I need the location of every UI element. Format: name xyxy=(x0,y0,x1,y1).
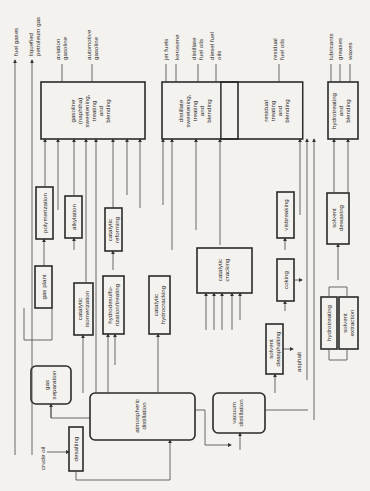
label-alkylation: alkylation xyxy=(70,204,77,230)
product-aviation-2: gasoline xyxy=(61,36,68,60)
product-diesel-1: diesel fuel xyxy=(208,32,215,60)
input-crude-oil: crude oil xyxy=(39,447,46,470)
product-jet-fuels: jet fuels xyxy=(162,39,169,61)
label-cat-cracking-1: catalytic xyxy=(216,259,223,281)
label-extraction-2: extraction xyxy=(348,309,355,336)
label-isomerization-2: isomerization xyxy=(83,290,90,327)
label-atm-dist-2: distillation xyxy=(140,402,147,430)
label-dewaxing-2: dewaxing xyxy=(337,204,344,231)
label-extraction-1: solvent xyxy=(341,313,348,333)
label-gasoline-5: and xyxy=(97,105,104,116)
product-residual-1: residual xyxy=(271,38,278,60)
label-deasphalting-2: deasphalting xyxy=(274,331,281,367)
label-isomerization-1: catalytic xyxy=(76,298,83,320)
label-residual-4: blending xyxy=(283,99,290,123)
label-gasoline-6: blending xyxy=(104,99,111,123)
product-automotive-2: gasoline xyxy=(92,36,99,60)
product-asphalt: asphalt xyxy=(295,352,302,372)
product-lubricants: lubricants xyxy=(327,34,334,60)
product-fuel-gases: fuel gases xyxy=(12,28,19,56)
label-polymerization: polymerization xyxy=(41,193,48,233)
label-visbreaking: visbreaking xyxy=(282,199,289,231)
label-distillate-4: and xyxy=(198,105,205,116)
product-residual-2: fuel oils xyxy=(278,39,285,60)
label-hds-1: hydrodesulfu- xyxy=(106,286,113,324)
label-hds-2: rization/treating xyxy=(113,283,120,326)
label-residual-3: and xyxy=(276,105,283,116)
product-lpg-2: petroleum gas xyxy=(34,17,41,56)
label-vac-dist-2: distillation xyxy=(237,399,244,427)
product-kerosene: kerosene xyxy=(173,34,180,60)
product-lpg-1: liquefied xyxy=(27,32,34,56)
product-waxes: waxes xyxy=(346,42,353,61)
label-gas-plant: gas plant xyxy=(40,274,47,299)
label-hydrocracking-1: catalytic xyxy=(152,294,159,316)
label-distillate-5: blending xyxy=(205,99,212,123)
label-lube-3: blending xyxy=(344,99,351,123)
label-gas-separation-2: separation xyxy=(50,370,57,399)
label-atm-dist-1: atmospheric xyxy=(133,399,140,433)
refinery-flow-diagram: fuel gases liquefied petroleum gas aviat… xyxy=(0,0,370,491)
label-residual-2: treating xyxy=(269,100,276,121)
label-hydrocracking-2: hydrocracking xyxy=(159,285,166,324)
label-gasoline-2: (naphtha) xyxy=(76,98,83,125)
label-lube-1: hydrotreating xyxy=(330,92,337,129)
label-hydrotreating: hydrotreating xyxy=(325,304,332,341)
product-diesel-2: oils xyxy=(215,51,222,60)
label-desalting: desalting xyxy=(72,436,79,461)
label-lube-2: and xyxy=(337,105,344,116)
label-dewaxing-1: solvent xyxy=(330,208,337,228)
label-distillate-1: distillate xyxy=(177,99,184,122)
product-automotive-1: automotive xyxy=(85,29,92,60)
product-distillate-2: fuel oils xyxy=(197,39,204,60)
label-gas-separation-1: gas xyxy=(43,380,50,390)
product-aviation-1: aviation xyxy=(54,38,61,60)
label-gasoline-3: sweetening, xyxy=(83,94,90,127)
label-vac-dist-1: vacuum xyxy=(230,402,237,424)
label-residual-1: residual xyxy=(262,100,269,122)
label-gasoline-4: treating xyxy=(90,100,97,121)
label-deasphalting-1: solvent xyxy=(267,339,274,359)
label-cat-cracking-2: cracking xyxy=(223,258,230,282)
label-distillate-2: sweetening, xyxy=(184,94,191,127)
label-distillate-3: treating xyxy=(191,100,198,121)
product-distillate-1: distillate xyxy=(190,37,197,60)
label-coking: coking xyxy=(282,271,289,289)
product-greases: greases xyxy=(336,38,343,60)
label-gasoline-1: gasoline xyxy=(69,99,76,123)
label-reforming-1: catalytic xyxy=(106,219,113,241)
label-reforming-2: reforming xyxy=(113,216,120,243)
